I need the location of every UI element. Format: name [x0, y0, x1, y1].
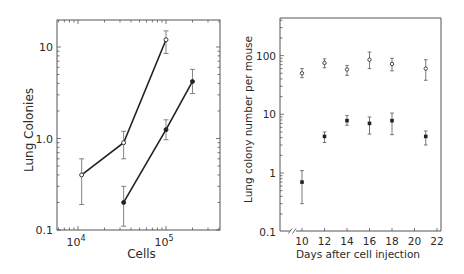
filled-data-point: [390, 119, 394, 123]
open-data-point: [424, 67, 427, 70]
x-tick-label: 16: [363, 235, 377, 247]
open-data-point: [390, 62, 393, 65]
y-tick-label: 1: [269, 167, 276, 179]
y-tick-label: 10: [39, 41, 53, 54]
x-axis-label: Cells: [127, 247, 156, 261]
x-tick-label: 105: [154, 234, 173, 249]
x-tick-label: 20: [408, 235, 421, 247]
open-data-point: [345, 68, 348, 71]
open-data-point: [323, 61, 326, 64]
open-data-point: [164, 38, 168, 42]
y-tick-label: 0.1: [259, 226, 276, 238]
x-tick-label: 10: [295, 235, 308, 247]
y-axis-label: Lung colony number per mouse: [242, 36, 254, 203]
filled-data-point: [323, 135, 327, 139]
open-data-point: [368, 58, 371, 61]
filled-data-point: [190, 79, 194, 83]
open-data-point: [300, 72, 303, 75]
filled-data-point: [345, 119, 349, 123]
y-tick-label: 100: [256, 50, 276, 62]
x-axis-label: Days after cell injection: [296, 248, 420, 260]
y-tick-label: 0.1: [36, 224, 54, 237]
x-tick-label: 104: [66, 234, 85, 249]
filled-data-point: [164, 128, 168, 132]
open-data-point: [122, 141, 126, 145]
filled-data-point: [300, 180, 304, 184]
y-axis-label: Lung Colonies: [22, 88, 36, 172]
open-data-point: [80, 173, 84, 177]
x-tick-label: 12: [318, 235, 331, 247]
series-line: [124, 81, 193, 202]
filled-data-point: [122, 200, 126, 204]
y-tick-label: 1.0: [36, 133, 54, 146]
filled-data-point: [424, 135, 428, 139]
filled-data-point: [368, 122, 372, 126]
x-tick-label: 18: [385, 235, 398, 247]
chart-left: 0.11.010104105CellsLung Colonies: [0, 0, 232, 274]
x-tick-label: 14: [340, 235, 354, 247]
x-tick-label: 22: [430, 235, 443, 247]
y-tick-label: 10: [263, 108, 276, 120]
chart-right: 101214161820220.1110100Days after cell i…: [232, 0, 464, 274]
